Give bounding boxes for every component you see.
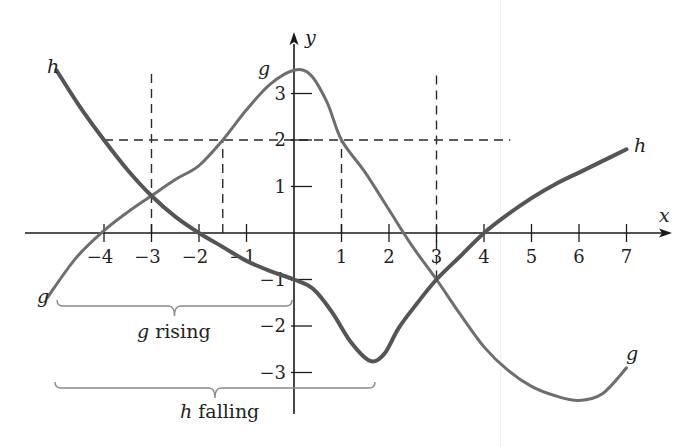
- x-tick-label: 6: [573, 246, 584, 267]
- x-tick-label: −4: [87, 246, 114, 267]
- x-tick-label: 7: [621, 246, 632, 267]
- x-tick-label: −3: [134, 246, 161, 267]
- x-tick-label: 5: [526, 246, 537, 267]
- brace-g-rising: [57, 300, 292, 316]
- function-graph: −4−3−2−11234567321−1−2−3 x y h g h g g g…: [0, 0, 694, 447]
- x-tick-label: 1: [336, 246, 347, 267]
- interval-braces: [55, 300, 375, 398]
- h-falling-label: h falling: [180, 400, 259, 422]
- x-tick-label: 2: [383, 246, 394, 267]
- y-tick-label: 1: [275, 176, 286, 197]
- curve-label-g-left: g: [37, 285, 49, 307]
- curve-label-g-top: g: [258, 57, 270, 79]
- y-axis-arrow-icon: [290, 32, 299, 45]
- y-tick-label: 3: [275, 83, 286, 104]
- x-tick-label: −2: [182, 246, 209, 267]
- y-tick-label: −3: [259, 362, 286, 383]
- curves: [47, 70, 627, 401]
- brace-h-falling: [55, 382, 375, 398]
- h-falling-var: h: [180, 400, 192, 422]
- x-tick-label: 3: [431, 246, 442, 267]
- y-tick-label: 2: [275, 129, 286, 150]
- y-axis-label: y: [304, 26, 316, 48]
- curve-label-h-right: h: [634, 134, 646, 156]
- x-axis-label: x: [659, 204, 670, 226]
- y-tick-label: −2: [259, 315, 286, 336]
- g-rising-label: g rising: [137, 320, 211, 342]
- curve-g: [47, 70, 627, 401]
- h-falling-word: falling: [192, 400, 259, 422]
- reference-dashed-lines: [104, 70, 510, 279]
- axes: [25, 32, 672, 414]
- g-rising-var: g: [137, 320, 149, 342]
- x-tick-label: 4: [478, 246, 489, 267]
- g-rising-word: rising: [149, 320, 210, 342]
- curve-label-g-right: g: [626, 342, 638, 364]
- curve-label-h-left: h: [47, 55, 59, 77]
